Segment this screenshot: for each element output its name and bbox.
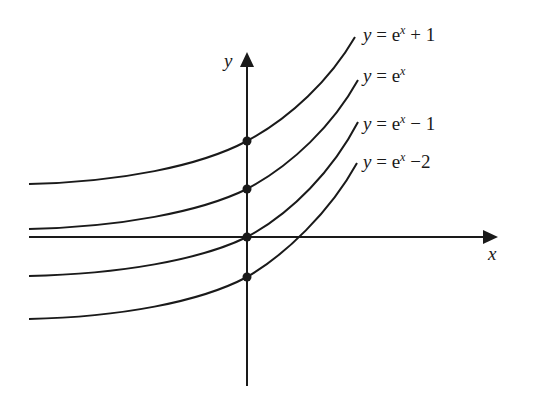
- y-axis-label: y: [224, 50, 232, 72]
- label-exp: y = ex: [363, 65, 405, 85]
- curve-exp-minus-1: [29, 122, 358, 276]
- curve-exp-minus-2: [29, 163, 357, 319]
- intercept-dot-exp-minus-1: [243, 233, 252, 242]
- intercept-dot-exp-minus-2: [243, 273, 252, 282]
- intercept-dot-exp-plus-1: [243, 137, 252, 146]
- label-exp-minus-2: y = ex −2: [363, 151, 430, 171]
- graph-canvas: [0, 0, 535, 411]
- y-axis-arrowhead: [240, 52, 254, 67]
- x-axis-label: x: [488, 243, 496, 265]
- x-axis-arrowhead: [483, 230, 498, 244]
- intercept-dot-exp: [243, 185, 252, 194]
- label-exp-minus-1: y = ex − 1: [363, 113, 435, 133]
- label-exp-plus-1: y = ex + 1: [363, 24, 435, 44]
- curve-exp: [29, 80, 358, 229]
- curve-exp-plus-1: [29, 37, 355, 184]
